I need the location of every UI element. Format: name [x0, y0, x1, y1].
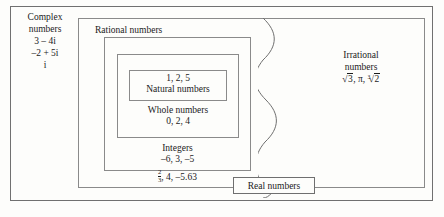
- integers-examples: –6, 3, –5: [104, 154, 251, 165]
- number-systems-diagram: Complex numbers 3 – 4i –2 + 5i i Rationa…: [0, 0, 444, 217]
- rational-examples-suffix: , 4, –5.63: [161, 172, 197, 182]
- complex-name-line2: numbers: [14, 24, 76, 36]
- complex-example-1: 3 – 4i: [14, 36, 76, 48]
- natural-numbers-label: 1, 2, 5 Natural numbers: [129, 73, 227, 95]
- cube-root-2-radicand: 2: [374, 73, 380, 84]
- wavy-divider-line: [258, 18, 284, 188]
- irrational-examples: √3, π, 3√2: [313, 74, 409, 86]
- sqrt-3: √3: [342, 73, 353, 84]
- complex-numbers-label: Complex numbers 3 – 4i –2 + 5i i: [14, 12, 76, 71]
- real-numbers-callout: Real numbers: [233, 177, 315, 194]
- natural-name: Natural numbers: [129, 84, 227, 95]
- irrational-name-line1: Irrational: [313, 50, 409, 62]
- integers-label: Integers –6, 3, –5: [104, 143, 251, 165]
- whole-examples: 0, 2, 4: [117, 116, 239, 127]
- irrational-name-line2: numbers: [313, 62, 409, 74]
- complex-example-3: i: [14, 60, 76, 72]
- rational-numbers-examples: 23, 4, –5.63: [104, 169, 251, 184]
- integers-name: Integers: [104, 143, 251, 154]
- whole-numbers-label: Whole numbers 0, 2, 4: [117, 105, 239, 127]
- complex-name-line1: Complex: [14, 12, 76, 24]
- rational-numbers-label: Rational numbers: [95, 25, 162, 36]
- whole-name: Whole numbers: [117, 105, 239, 116]
- cube-root-2: 3√2: [368, 74, 380, 84]
- natural-examples: 1, 2, 5: [129, 73, 227, 84]
- cube-root-index: 3: [368, 74, 371, 80]
- irrational-numbers-label: Irrational numbers √3, π, 3√2: [313, 50, 409, 86]
- comma-2: ,: [363, 74, 368, 84]
- complex-example-2: –2 + 5i: [14, 48, 76, 60]
